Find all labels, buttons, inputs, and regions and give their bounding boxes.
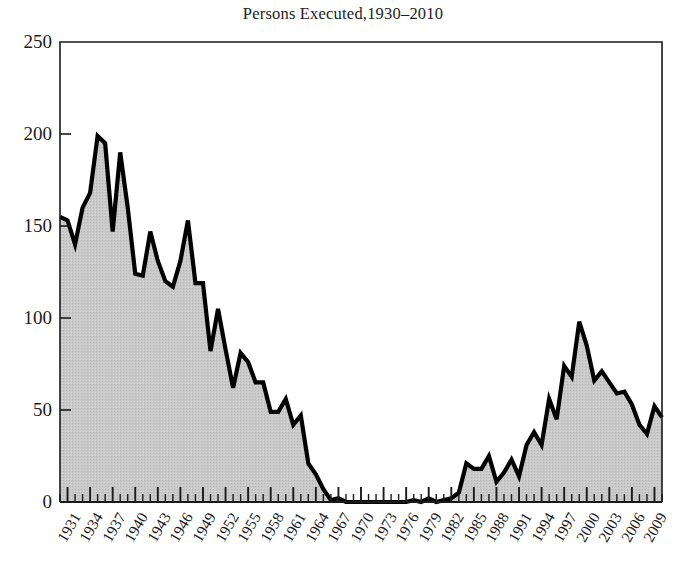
y-axis-label: 150 xyxy=(24,216,53,235)
area-fill xyxy=(60,136,662,502)
y-axis-label: 0 xyxy=(43,492,53,511)
y-axis-label: 100 xyxy=(24,308,53,327)
y-axis-label: 200 xyxy=(24,124,53,143)
y-axis-label: 50 xyxy=(33,400,52,419)
chart-plot-area xyxy=(0,0,686,569)
y-axis-label: 250 xyxy=(24,32,53,51)
chart-figure: Persons Executed,1930–2010 0501001502002… xyxy=(0,0,686,569)
